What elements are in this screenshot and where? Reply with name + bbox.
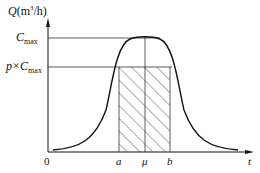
tick-mu: μ [142, 155, 148, 167]
x-axis-arrow-icon [245, 150, 254, 154]
pcmax-label: p×Cmax [6, 59, 42, 75]
y-axis-label: Q(m3/h) [8, 4, 47, 19]
hatched-region [119, 67, 170, 152]
cmax-label: Cmax [16, 30, 38, 46]
tick-a: a [116, 155, 122, 167]
tick-b: b [167, 155, 173, 167]
y-axis-arrow-icon [46, 18, 50, 27]
x-axis-label: t [248, 155, 251, 167]
origin-label: 0 [44, 155, 50, 167]
diagram-canvas [0, 0, 260, 173]
